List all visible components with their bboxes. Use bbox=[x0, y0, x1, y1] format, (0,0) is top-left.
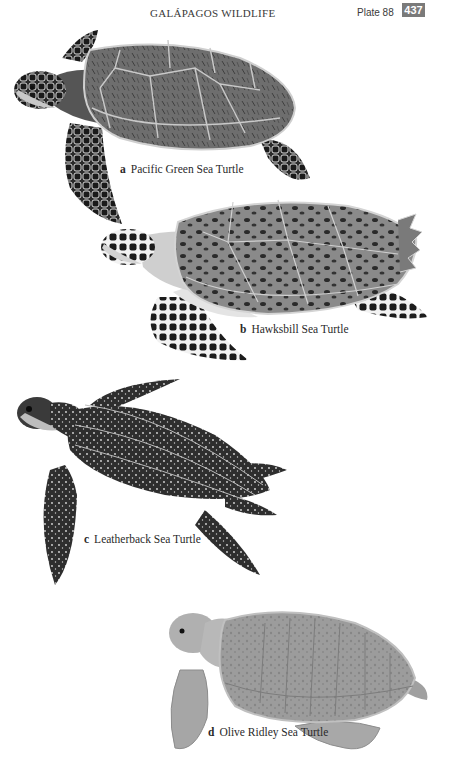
page-number-badge: 437 bbox=[402, 3, 425, 17]
page-header-title: GALÁPAGOS WILDLIFE bbox=[150, 7, 276, 19]
leatherback-sea-turtle-illustration bbox=[15, 375, 295, 595]
plate-label: Plate 88 bbox=[357, 7, 394, 18]
caption-hawksbill-sea-turtle: bHawksbill Sea Turtle bbox=[240, 323, 349, 335]
caption-letter: d bbox=[208, 726, 214, 738]
caption-olive-ridley-sea-turtle: dOlive Ridley Sea Turtle bbox=[208, 726, 328, 738]
caption-leatherback-sea-turtle: cLeatherback Sea Turtle bbox=[84, 533, 201, 545]
species-name: Hawksbill Sea Turtle bbox=[251, 323, 348, 335]
species-name: Olive Ridley Sea Turtle bbox=[219, 726, 328, 738]
caption-letter: c bbox=[84, 533, 89, 545]
caption-letter: b bbox=[240, 323, 246, 335]
caption-letter: a bbox=[120, 163, 126, 175]
hawksbill-sea-turtle-illustration bbox=[98, 192, 433, 367]
species-name: Pacific Green Sea Turtle bbox=[131, 163, 244, 175]
caption-green-sea-turtle: aPacific Green Sea Turtle bbox=[120, 163, 244, 175]
species-name: Leatherback Sea Turtle bbox=[94, 533, 201, 545]
